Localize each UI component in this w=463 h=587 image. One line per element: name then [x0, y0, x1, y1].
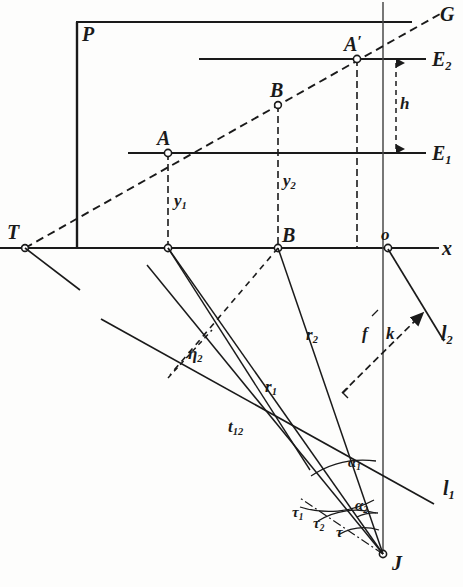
label-plane-p: P	[82, 24, 94, 44]
label-tau2-sub: 2	[320, 523, 325, 533]
rays-from-j	[147, 248, 383, 554]
ray-b-foot-dashed	[170, 248, 278, 375]
label-r1-base: r	[265, 377, 272, 396]
label-point-t: T	[7, 222, 19, 242]
label-ordinate-y2: y2	[283, 172, 296, 192]
figure-root: P T A A′ B B G E2 E1 h y1 y2 o x r1 r2 t…	[0, 0, 463, 587]
label-point-b-lower: B	[282, 225, 295, 245]
arc-alpha1	[311, 460, 376, 476]
ray-r1	[168, 248, 383, 554]
label-eta2: η2	[188, 345, 203, 365]
marker-A	[164, 149, 171, 156]
label-angle-tau2: τ2	[313, 516, 324, 533]
ray-from-t	[25, 248, 80, 290]
label-height-h: h	[400, 95, 409, 112]
line-g	[25, 14, 440, 248]
label-point-a-prime: A′	[344, 34, 362, 54]
label-y1-base: y	[174, 191, 182, 210]
label-radius-r2: r2	[306, 326, 318, 346]
label-r2-base: r	[306, 325, 313, 344]
label-y2-sub: 2	[291, 180, 296, 191]
marker-A-prime	[353, 55, 360, 62]
label-plane-e1: E1	[432, 143, 452, 166]
label-e2-base: E	[432, 48, 445, 70]
tick-marks	[372, 310, 378, 316]
label-tau1-base: τ	[292, 504, 299, 520]
label-plane-e2: E2	[432, 49, 452, 72]
label-radius-r1: r1	[265, 378, 277, 398]
label-tau1-sub: 1	[299, 512, 304, 522]
label-line-l2: l2	[441, 323, 453, 346]
label-r2-sub: 2	[313, 334, 318, 345]
label-focal-f: f	[362, 325, 368, 342]
label-line-g: G	[440, 4, 454, 24]
label-alpha1-sub: 1	[356, 462, 361, 472]
label-alpha2-sub: 2	[363, 505, 368, 515]
label-eta2-base: η	[188, 344, 197, 363]
label-r1-sub: 1	[272, 386, 277, 397]
label-point-b-upper: B	[270, 80, 283, 100]
label-e1-base: E	[432, 142, 445, 164]
arc-tau	[338, 528, 379, 535]
label-angle-tau: τ	[336, 525, 343, 540]
line-l1	[101, 319, 434, 504]
label-y2-base: y	[283, 171, 291, 190]
label-l2-sub: 2	[447, 333, 453, 347]
label-e2-sub: 2	[445, 59, 451, 73]
label-segment-k: k	[386, 325, 395, 342]
label-axis-x: x	[442, 238, 452, 258]
label-origin-o: o	[381, 226, 390, 243]
label-point-j: J	[392, 553, 402, 573]
label-l1-sub: 1	[449, 488, 455, 502]
label-tangent-t12: t12	[228, 418, 243, 438]
label-angle-alpha2: α2	[355, 498, 368, 515]
label-tau2-base: τ	[313, 515, 320, 531]
label-y1-sub: 1	[182, 200, 187, 211]
label-angle-tau1: τ1	[292, 505, 303, 522]
segment-k	[342, 316, 420, 398]
label-eta2-sub: 2	[197, 353, 202, 364]
label-angle-alpha1: α1	[348, 455, 361, 472]
label-point-a: A	[157, 128, 170, 148]
label-t12-sub: 12	[233, 426, 244, 437]
label-ordinate-y1: y1	[174, 192, 187, 212]
plane-p-outline	[76, 22, 412, 249]
label-a-prime-base: A	[344, 33, 357, 55]
line-l2	[388, 249, 444, 341]
label-a-prime-mark: ′	[357, 33, 362, 50]
label-e1-sub: 1	[445, 153, 451, 167]
marker-B-upper	[275, 102, 282, 109]
label-line-l1: l1	[443, 478, 455, 501]
diagram-canvas	[0, 0, 463, 587]
